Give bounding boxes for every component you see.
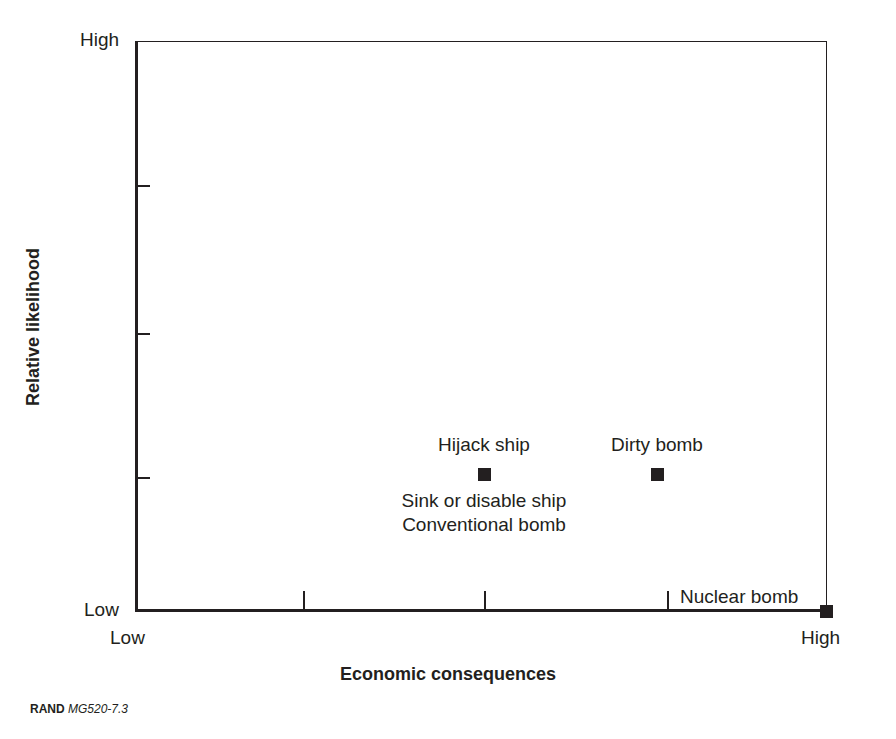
x-axis-tick-1 xyxy=(303,591,305,612)
data-point-nuclear-bomb[interactable] xyxy=(820,605,833,618)
data-label-conventional-bomb: Conventional bomb xyxy=(402,513,567,537)
y-axis-title: Relative likelihood xyxy=(20,42,46,613)
x-axis-tick-3 xyxy=(667,591,669,612)
y-axis-tick-2 xyxy=(137,333,150,335)
x-axis-title: Economic consequences xyxy=(0,664,896,685)
data-label-sink-or-disable-ship: Sink or disable ship xyxy=(402,489,567,513)
y-axis-tick-1 xyxy=(137,185,150,187)
x-axis-label-low: Low xyxy=(110,627,145,649)
data-label-sink-conventional: Sink or disable ship Conventional bomb xyxy=(402,489,567,537)
x-axis-label-high: High xyxy=(801,627,840,649)
footer-figure-number: MG520-7.3 xyxy=(68,702,128,716)
data-label-nuclear-bomb: Nuclear bomb xyxy=(680,585,798,609)
data-point-dirty-bomb[interactable] xyxy=(651,468,664,481)
footer-brand: RAND xyxy=(30,702,65,716)
figure-container: High Low Low High Economic consequences … xyxy=(0,0,896,739)
data-point-hijack-ship[interactable] xyxy=(478,468,491,481)
data-label-dirty-bomb: Dirty bomb xyxy=(611,433,703,457)
footer-credit: RAND MG520-7.3 xyxy=(30,702,128,716)
x-axis-tick-2 xyxy=(484,591,486,612)
y-axis-label-high: High xyxy=(80,29,119,51)
data-label-hijack-ship: Hijack ship xyxy=(438,433,530,457)
y-axis-tick-3 xyxy=(137,477,150,479)
y-axis-label-low: Low xyxy=(84,599,119,621)
